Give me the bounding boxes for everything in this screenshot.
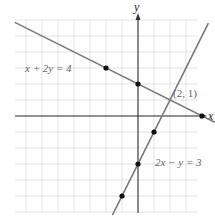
- annotations: x + 2y = 4 2x − y = 3 (2, 1): [24, 62, 202, 168]
- y-axis-arrow-icon: [136, 13, 141, 20]
- y-axis-label: y: [133, 0, 140, 14]
- data-point: [135, 81, 140, 86]
- data-point: [135, 161, 140, 166]
- data-point: [151, 129, 156, 134]
- plot-lines: [15, 22, 215, 215]
- intersection-label: (2, 1): [173, 87, 197, 100]
- data-point: [119, 193, 124, 198]
- data-point: [103, 65, 108, 70]
- equation-label-2: 2x − y = 3: [155, 156, 202, 168]
- coordinate-plane: x y x + 2y = 4 2x − y = 3 (2, 1): [0, 0, 215, 220]
- data-point: [199, 113, 204, 118]
- equation-label-1: x + 2y = 4: [24, 62, 72, 74]
